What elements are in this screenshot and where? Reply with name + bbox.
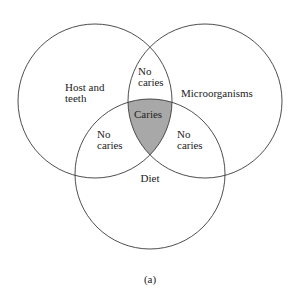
figure-caption: (a) bbox=[144, 273, 157, 286]
host-diet-no-line2: caries bbox=[97, 139, 123, 151]
venn-diagram: Host and teeth Microorganisms Diet No ca… bbox=[0, 0, 295, 292]
host-micro-no-line2: caries bbox=[138, 76, 164, 88]
host-label-line2: teeth bbox=[65, 92, 87, 104]
microorganisms-label: Microorganisms bbox=[181, 87, 253, 99]
diet-label: Diet bbox=[141, 172, 160, 184]
caries-label: Caries bbox=[134, 108, 162, 120]
micro-diet-no-line2: caries bbox=[177, 139, 203, 151]
